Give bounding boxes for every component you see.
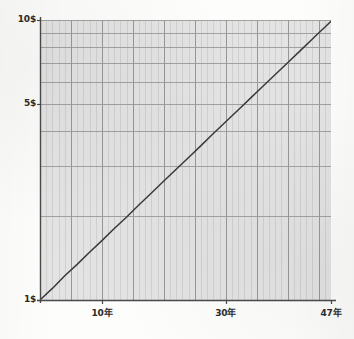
x-axis-label-10years: 10年	[82, 309, 122, 318]
chart-container: 10$ 5$ 1$ 10年 30年 47年	[0, 0, 354, 339]
x-axis-label-47years: 47年	[311, 309, 351, 318]
y-axis-label-1dollar: 1$	[4, 295, 36, 304]
growth-chart-plot	[0, 0, 354, 339]
y-axis-label-5dollars: 5$	[4, 99, 36, 108]
y-axis-label-10dollars: 10$	[4, 15, 36, 24]
y-axis-ticks	[37, 21, 40, 301]
x-axis-label-30years: 30年	[206, 309, 246, 318]
